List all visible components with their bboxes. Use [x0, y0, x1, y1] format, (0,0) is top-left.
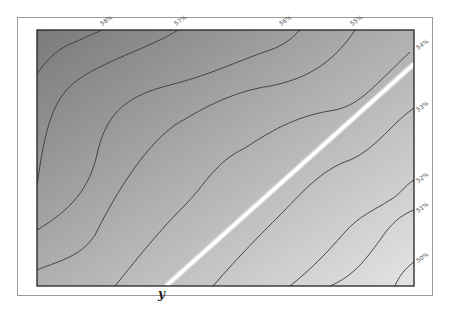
contour-label-54: 54% — [415, 37, 430, 51]
contour-label-55: 55% — [349, 13, 364, 27]
contour-label-50: 50% — [415, 250, 430, 264]
contour-label-58: 58% — [99, 13, 114, 27]
x-axis-label: y — [157, 287, 166, 301]
contour-label-51: 51% — [415, 200, 430, 214]
contour-label-52: 52% — [415, 170, 430, 184]
contour-label-53: 53% — [415, 99, 430, 113]
contour-label-56: 56% — [278, 13, 293, 27]
contour-plot: 58% 57% 56% 55% 54% 53% 52% 51% 50% y — [0, 0, 452, 319]
contour-label-57: 57% — [173, 13, 188, 27]
plot-area — [37, 30, 414, 286]
